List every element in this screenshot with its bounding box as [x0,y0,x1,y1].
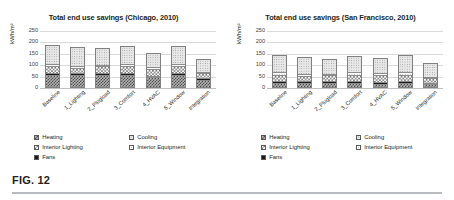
legend-label: Interior Equipment [364,142,412,152]
x-tick-label-3-comfort: 3_Comfort [340,89,363,111]
bar-segment-cooling [172,47,185,65]
x-axis-labels-san-francisco: Baseline1_Lighting2_Plugload3_Comfort4_H… [267,89,443,131]
x-tick-label-3-comfort: 3_Comfort [113,89,136,111]
bar-segment-cooling [323,60,336,75]
y-axis-label-chicago: kWh/m² [9,23,15,44]
bar-3-comfort [120,46,135,88]
x-tick-label-5-window: 5_Window [163,89,186,111]
chart-panels: Total end use savings (Chicago, 2010) kW… [0,0,454,172]
legend-item-cooling: Cooling [129,132,224,142]
bar-segment-interior-lighting [46,67,59,74]
x-tick-label-integration: Integration [188,89,212,111]
x-tick-label-1-lighting: 1_Lighting [63,89,86,111]
bar-segment-cooling [374,59,387,74]
legend-label: Heating [269,132,289,142]
bar-5-window [171,46,186,88]
legend-swatch-icon [129,135,134,140]
plot-area-san-francisco: 050100150200250 [267,31,443,88]
legend-label: Interior Lighting [269,142,310,152]
bar-segment-heating [273,84,286,87]
bar-integration [196,59,211,88]
bar-baseline [45,45,60,88]
bar-2-plugload [95,48,110,88]
y-tick-150: 150 [29,51,38,57]
bar-segment-heating [147,78,160,87]
legend-item-fans: Fans [261,152,356,162]
bar-segment-interior-lighting [147,70,160,77]
bar-1-lighting [70,47,85,88]
legend-item-interior-equipment: Interior Equipment [129,142,224,152]
y-tick-100: 100 [29,62,38,68]
legend-label: Cooling [137,132,157,142]
legend-swatch-icon [34,145,39,150]
x-tick-label-1-lighting: 1_Lighting [290,89,313,111]
x-axis-labels-chicago: Baseline1_Lighting2_Plugload3_Comfort4_H… [40,89,216,131]
bar-segment-interior-lighting [374,76,387,83]
legend-chicago: HeatingCoolingInterior LightingInterior … [34,132,224,162]
bar-segment-cooling [197,60,210,73]
bar-segment-interior-lighting [273,76,286,83]
bar-segment-heating [46,76,59,87]
y-tick-50: 50 [32,74,38,80]
y-tick-0: 0 [35,85,38,91]
legend-label: Interior Equipment [137,142,185,152]
y-tick-200: 200 [29,40,38,46]
bar-segment-interior-lighting [323,76,336,83]
legend-swatch-icon [261,155,266,160]
legend-label: Fans [269,152,282,162]
legend-swatch-icon [356,145,361,150]
legend-san-francisco: HeatingCoolingInterior LightingInterior … [261,132,451,162]
y-tick-50: 50 [259,74,265,80]
bar-2-plugload [322,59,337,88]
bar-segment-heating [424,85,437,87]
bar-segment-heating [71,76,84,87]
legend-swatch-icon [129,145,134,150]
y-tick-100: 100 [256,62,265,68]
bar-1-lighting [297,57,312,88]
chart-title-san-francisco: Total end use savings (San Francisco, 20… [227,13,454,22]
bar-segment-heating [172,76,185,87]
legend-row: HeatingCooling [34,132,224,142]
x-tick-label-5-window: 5_Window [390,89,413,111]
bar-5-window [398,55,413,88]
legend-item-heating: Heating [261,132,356,142]
legend-item-interior-equipment: Interior Equipment [356,142,451,152]
bar-segment-cooling [273,56,286,73]
bar-segment-heating [96,76,109,87]
legend-row: Interior LightingInterior Equipment [34,142,224,152]
y-tick-0: 0 [262,85,265,91]
bar-segment-cooling [147,54,160,67]
x-tick-label-baseline: Baseline [268,89,288,108]
x-tick-label-baseline: Baseline [41,89,61,108]
bar-segment-heating [121,76,134,87]
bar-segment-heating [323,84,336,87]
legend-row: Fans [34,152,224,162]
x-tick-label-4-hvac: 4_HVAC [141,89,161,108]
y-tick-250: 250 [29,28,38,34]
y-tick-250: 250 [256,28,265,34]
legend-swatch-icon [34,135,39,140]
bar-segment-interior-lighting [348,76,361,83]
chart-panel-chicago: Total end use savings (Chicago, 2010) kW… [0,0,227,172]
x-tick-label-4-hvac: 4_HVAC [368,89,388,108]
bar-segment-cooling [424,64,437,78]
figure-12: Total end use savings (Chicago, 2010) kW… [0,0,454,200]
figure-caption: FIG. 12 [12,174,50,186]
figure-divider [12,192,442,194]
chart-panel-san-francisco: Total end use savings (San Francisco, 20… [227,0,454,172]
bar-4-hvac [373,58,388,88]
legend-swatch-icon [261,145,266,150]
x-tick-label-2-plugload: 2_Plugload [313,89,338,112]
bar-3-comfort [347,56,362,88]
bar-segment-interior-lighting [96,67,109,74]
legend-row: Interior LightingInterior Equipment [261,142,451,152]
bar-segment-interior-lighting [399,76,412,83]
legend-label: Interior Lighting [42,142,83,152]
legend-row: HeatingCooling [261,132,451,142]
bar-segment-heating [348,84,361,87]
legend-row: Fans [261,152,451,162]
bar-segment-heating [197,81,210,87]
bar-segment-heating [399,84,412,87]
bar-4-hvac [146,53,161,88]
bar-baseline [272,55,287,88]
